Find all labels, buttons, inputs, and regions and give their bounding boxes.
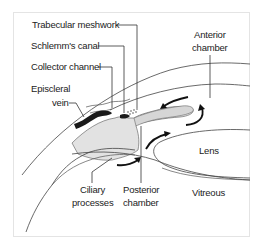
label-ciliary-processes-1: Ciliary (80, 184, 105, 195)
label-vitreous: Vitreous (192, 187, 226, 198)
lens-outline-inner (162, 168, 250, 180)
eye-outflow-diagram: Trabecular meshwork Schlemm's canal Coll… (0, 0, 258, 248)
leader-ciliary-processes (92, 158, 112, 183)
label-posterior-chamber-2: chamber (123, 197, 159, 208)
label-anterior-chamber-2: chamber (192, 42, 228, 53)
label-trabecular-meshwork: Trabecular meshwork (32, 19, 120, 30)
choroid-curve-2 (26, 185, 52, 232)
label-schlemms-canal: Schlemm's canal (31, 40, 100, 51)
trabecular-meshwork-dots (127, 108, 138, 115)
label-episcleral-vein-2: vein (52, 97, 69, 108)
label-posterior-chamber-1: Posterior (123, 184, 159, 195)
leader-schlemms-canal (98, 46, 124, 113)
label-collector-channel: Collector channel (31, 61, 101, 72)
leader-collector-channel (98, 67, 112, 108)
leader-episcleral-vein (69, 103, 84, 117)
label-anterior-chamber-1: Anterior (194, 29, 226, 40)
label-episcleral-vein-1: Episcleral (31, 83, 70, 94)
choroid-curve-3 (52, 154, 135, 185)
label-ciliary-processes-2: processes (72, 197, 114, 208)
leader-trabecular-meshwork (116, 25, 137, 108)
label-lens: Lens (199, 145, 219, 156)
episcleral-wavy-line (86, 99, 130, 107)
